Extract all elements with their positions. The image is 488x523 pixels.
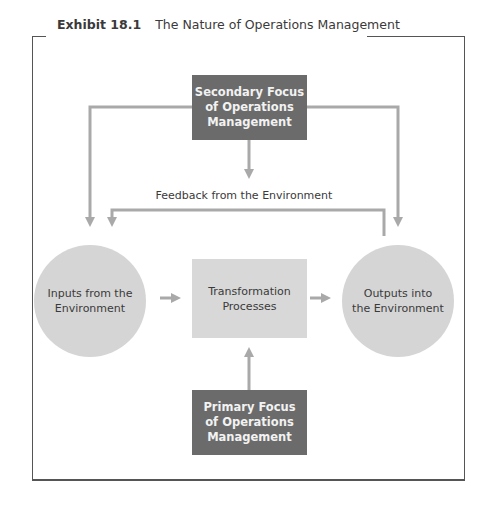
secondary-focus-box: Secondary Focus of Operations Management	[192, 75, 307, 140]
secondary-focus-line-3: Management	[195, 115, 304, 130]
secondary-focus-line-2: of Operations	[195, 100, 304, 115]
primary-focus-line-1: Primary Focus	[203, 400, 295, 415]
primary-focus-line-3: Management	[203, 430, 295, 445]
transformation-box: Transformation Processes	[192, 259, 307, 338]
feedback-label: Feedback from the Environment	[0, 189, 488, 202]
secondary-focus-line-1: Secondary Focus	[195, 85, 304, 100]
inputs-circle: Inputs from the Environment	[34, 245, 146, 357]
outputs-line-2: the Environment	[352, 301, 444, 316]
transformation-line-1: Transformation	[208, 284, 291, 299]
outputs-line-1: Outputs into	[352, 286, 444, 301]
outputs-circle: Outputs into the Environment	[342, 245, 454, 357]
inputs-line-1: Inputs from the	[48, 286, 133, 301]
inputs-line-2: Environment	[48, 301, 133, 316]
primary-focus-box: Primary Focus of Operations Management	[192, 390, 307, 455]
primary-focus-line-2: of Operations	[203, 415, 295, 430]
transformation-line-2: Processes	[208, 299, 291, 314]
